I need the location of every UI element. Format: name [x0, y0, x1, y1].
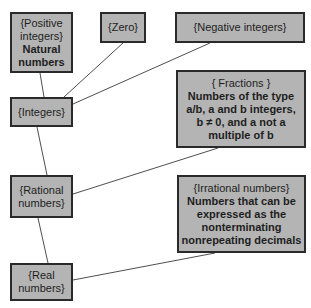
real-line1: {Real — [28, 269, 54, 282]
real-line2: numbers} — [18, 282, 64, 295]
positive-integers-box: {Positive integers} Natural numbers — [10, 12, 73, 73]
zero-box: {Zero} — [100, 12, 146, 43]
fractions-box: { Fractions } Numbers of the type a/b, a… — [176, 70, 306, 148]
link-rational-real — [38, 218, 48, 263]
irrational-desc3: nonterminating — [201, 221, 281, 234]
irrational-desc4: nonrepeating decimals — [182, 234, 302, 247]
irrational-numbers-box: {Irrational numbers} Numbers that can be… — [177, 175, 306, 253]
fractions-title: { Fractions } — [212, 77, 271, 90]
positive-line1: {Positive — [20, 17, 62, 30]
link-positive-integers — [40, 73, 44, 97]
irrational-desc2: expressed as the — [197, 208, 286, 221]
rational-numbers-box: {Rational numbers} — [10, 175, 73, 218]
link-integers-rational — [37, 127, 47, 175]
fractions-desc1: Numbers of the type — [188, 90, 294, 103]
integers-title: {Integers} — [18, 106, 65, 119]
link-irrational-real — [73, 253, 215, 280]
real-numbers-box: {Real numbers} — [10, 263, 73, 301]
positive-line4: numbers — [18, 56, 64, 69]
zero-title: {Zero} — [108, 21, 138, 34]
irrational-title: {Irrational numbers} — [194, 182, 290, 195]
rational-line1: {Rational — [19, 184, 63, 197]
negative-integers-box: {Negative integers} — [175, 12, 305, 43]
fractions-desc4: multiple of b — [208, 129, 273, 142]
rational-line2: numbers} — [18, 197, 64, 210]
integers-box: {Integers} — [10, 97, 73, 127]
positive-line2: integers} — [20, 30, 63, 43]
positive-line3: Natural — [23, 43, 61, 56]
irrational-desc1: Numbers that can be — [187, 195, 296, 208]
fractions-desc3: b ≠ 0, and a not a — [196, 116, 285, 129]
fractions-desc2: a/b, a and b integers, — [186, 103, 295, 116]
negative-title: {Negative integers} — [194, 21, 287, 34]
